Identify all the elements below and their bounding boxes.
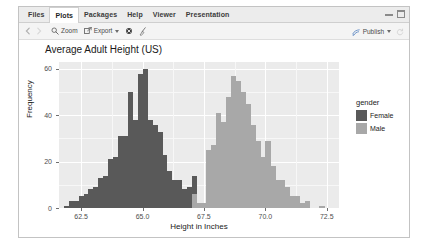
y-tick-mark xyxy=(56,69,59,70)
toolbar-right-group: Publish xyxy=(352,23,404,40)
remove-plot-icon xyxy=(125,27,133,35)
screenshot-root: Files Plots Packages Help Viewer Present… xyxy=(0,0,428,247)
export-icon xyxy=(84,27,92,35)
x-tick-mark xyxy=(265,208,266,211)
tab-packages[interactable]: Packages xyxy=(79,7,122,22)
tab-help[interactable]: Help xyxy=(122,7,148,22)
histogram-bar xyxy=(305,201,310,208)
legend-item-label: Female xyxy=(370,112,393,120)
forward-arrow-icon[interactable] xyxy=(35,27,43,35)
plot-panel xyxy=(59,62,339,208)
legend-item: Female xyxy=(356,110,409,121)
legend-items: FemaleMale xyxy=(356,110,409,134)
export-button[interactable]: Export xyxy=(84,27,120,35)
clear-plots-button[interactable] xyxy=(139,27,147,36)
legend-item: Male xyxy=(356,123,409,134)
y-tick-mark xyxy=(56,162,59,163)
minimize-icon[interactable] xyxy=(385,10,393,18)
magnifier-icon xyxy=(51,27,59,35)
tab-viewer[interactable]: Viewer xyxy=(148,7,181,22)
refresh-icon[interactable] xyxy=(396,28,404,36)
legend-color-swatch xyxy=(356,110,367,121)
y-tick-label: 40 xyxy=(19,112,52,119)
zoom-button[interactable]: Zoom xyxy=(51,27,78,35)
gridline-horizontal xyxy=(59,208,339,209)
publish-chevron-down-icon[interactable] xyxy=(387,30,391,33)
y-tick-mark xyxy=(56,208,59,209)
chevron-down-icon[interactable] xyxy=(115,30,119,33)
y-tick-label: 0 xyxy=(19,205,52,212)
pane-tab-bar: Files Plots Packages Help Viewer Present… xyxy=(19,7,409,23)
y-tick-mark xyxy=(56,115,59,116)
x-tick-mark xyxy=(327,208,328,211)
export-label: Export xyxy=(94,27,113,35)
broom-icon xyxy=(139,27,147,36)
plots-toolbar: Zoom Export xyxy=(19,23,409,40)
x-tick-mark xyxy=(81,208,82,211)
tab-plots[interactable]: Plots xyxy=(49,7,79,23)
x-tick-label: 62.5 xyxy=(74,213,88,220)
maximize-icon[interactable] xyxy=(397,10,405,18)
x-tick-label: 72.5 xyxy=(320,213,334,220)
nav-arrow-group xyxy=(24,27,43,35)
publish-icon xyxy=(352,28,361,36)
plot-canvas: Average Adult Height (US) 0204060 62.565… xyxy=(19,40,409,237)
y-tick-label: 60 xyxy=(19,65,52,72)
x-tick-mark xyxy=(143,208,144,211)
y-tick-label: 20 xyxy=(19,158,52,165)
publish-button[interactable]: Publish xyxy=(352,28,391,36)
remove-plot-button[interactable] xyxy=(125,27,133,35)
x-tick-mark xyxy=(204,208,205,211)
y-axis-label: Frequency xyxy=(25,80,34,118)
publish-label: Publish xyxy=(363,28,384,36)
rstudio-plots-pane: Files Plots Packages Help Viewer Present… xyxy=(18,6,410,238)
legend-title: gender xyxy=(356,98,409,107)
x-tick-label: 67.5 xyxy=(197,213,211,220)
legend-color-swatch xyxy=(356,123,367,134)
tab-files[interactable]: Files xyxy=(23,7,49,22)
window-controls xyxy=(385,10,405,18)
zoom-label: Zoom xyxy=(61,27,78,35)
legend-item-label: Male xyxy=(370,125,385,133)
x-axis-label: Height in Inches xyxy=(170,222,227,231)
x-tick-label: 65.0 xyxy=(136,213,150,220)
chart-title: Average Adult Height (US) xyxy=(45,44,162,55)
tab-presentation[interactable]: Presentation xyxy=(181,7,235,22)
back-arrow-icon[interactable] xyxy=(24,27,32,35)
legend: gender FemaleMale xyxy=(356,98,409,136)
histogram-bar xyxy=(319,206,324,208)
x-tick-label: 70.0 xyxy=(259,213,273,220)
histogram-bars xyxy=(59,62,339,208)
